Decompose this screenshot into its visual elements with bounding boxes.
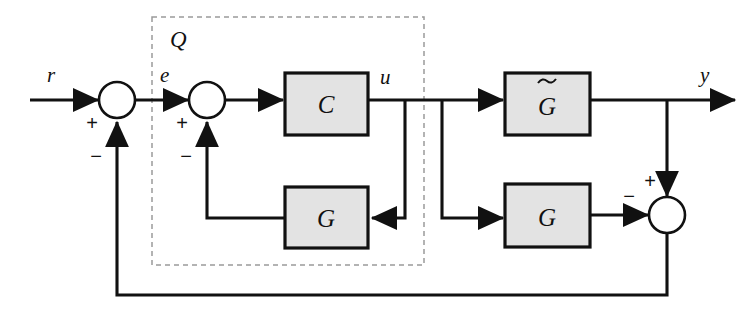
- signal-label-error: e: [160, 63, 169, 87]
- block-plant-label: G: [538, 93, 556, 120]
- block-model-label: G: [538, 204, 556, 231]
- block-inner-model-label: G: [317, 205, 335, 232]
- wire-inner-model-feedback: [207, 122, 285, 218]
- block-diagram-canvas: C G G G Q r e u y + − + − + −: [0, 0, 747, 322]
- signal-label-control: u: [380, 65, 391, 89]
- summing-junction-inner[interactable]: [189, 82, 225, 118]
- block-diagram: C G G G Q r e u y + − + − + −: [0, 0, 747, 322]
- sign-inner-sum-left: +: [176, 112, 188, 134]
- block-controller-label: C: [318, 91, 335, 118]
- signal-label-reference: r: [47, 63, 56, 87]
- wire-u-branch-to-model: [442, 100, 503, 218]
- summing-junction-outer[interactable]: [99, 82, 135, 118]
- q-group-label: Q: [170, 27, 187, 52]
- sign-mismatch-sum-left: −: [623, 185, 635, 207]
- sign-outer-sum-bottom: −: [90, 145, 102, 167]
- sign-inner-sum-bottom: −: [180, 145, 192, 167]
- signal-label-output: y: [698, 63, 710, 87]
- sign-mismatch-sum-top: +: [644, 170, 656, 192]
- summing-junction-mismatch[interactable]: [649, 197, 685, 233]
- sign-outer-sum-left: +: [86, 112, 98, 134]
- wire-u-branch-to-inner-model: [372, 100, 405, 218]
